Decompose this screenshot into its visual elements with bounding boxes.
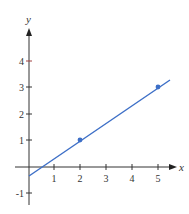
svg-text:-1: -1 (16, 188, 24, 199)
x-axis-arrow-icon (169, 164, 177, 170)
chart: x y 1 2 3 4 5 -1 1 2 3 4 (0, 0, 189, 214)
y-tick-labels: -1 1 2 3 4 (16, 56, 24, 199)
data-line (29, 80, 170, 176)
svg-text:4: 4 (19, 56, 24, 67)
y-axis-label: y (25, 13, 31, 25)
svg-text:4: 4 (130, 173, 135, 184)
svg-text:1: 1 (52, 173, 57, 184)
svg-text:3: 3 (19, 82, 24, 93)
x-tick-labels: 1 2 3 4 5 (52, 173, 161, 184)
svg-text:3: 3 (104, 173, 109, 184)
x-axis-label: x (178, 161, 184, 173)
data-point-5-3 (156, 85, 161, 90)
svg-text:2: 2 (78, 173, 83, 184)
svg-text:2: 2 (19, 109, 24, 120)
y-axis-arrow-icon (26, 28, 32, 36)
svg-text:5: 5 (156, 173, 161, 184)
axes (15, 36, 170, 205)
data-point-2-1 (78, 138, 83, 143)
svg-text:1: 1 (19, 135, 24, 146)
